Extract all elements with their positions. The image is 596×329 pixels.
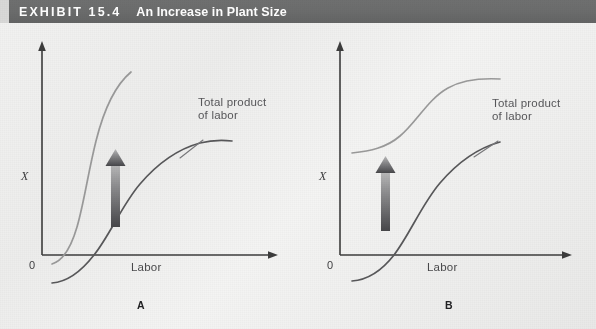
exhibit-figure: EXHIBIT 15.4 An Increase in Plant Size (0, 0, 596, 329)
shifted-total-product-curve (352, 79, 500, 153)
origin-label: 0 (29, 259, 35, 271)
y-axis-arrowhead (336, 41, 344, 51)
y-axis-label: X (319, 169, 327, 184)
annotation-line-2: of labor (198, 109, 238, 122)
exhibit-caption: An Increase in Plant Size (136, 5, 286, 19)
x-axis-arrowhead (268, 251, 278, 259)
panel-letter-a: A (137, 299, 145, 311)
exhibit-title-bar: EXHIBIT 15.4 An Increase in Plant Size (0, 0, 596, 23)
x-axis-label: Labor (131, 261, 161, 273)
chart-b-graphic (300, 23, 596, 329)
up-arrow (376, 156, 396, 231)
chart-panel-a: X 0 Labor Total product of labor A (0, 23, 300, 329)
origin-label: 0 (327, 259, 333, 271)
panel-letter-b: B (445, 299, 453, 311)
up-arrow (106, 149, 126, 227)
y-axis-arrowhead (38, 41, 46, 51)
chart-a-graphic (0, 23, 300, 329)
annotation-line-2: of labor (492, 110, 532, 123)
exhibit-number: EXHIBIT 15.4 (19, 5, 121, 19)
annotation-line-1: Total product (198, 96, 266, 109)
x-axis-label: Labor (427, 261, 457, 273)
chart-panel-b: X 0 Labor Total product of labor B (300, 23, 596, 329)
annotation-line-1: Total product (492, 97, 560, 110)
total-product-curve (352, 142, 500, 281)
x-axis-arrowhead (562, 251, 572, 259)
y-axis-label: X (21, 169, 29, 184)
annotation-leader-line (474, 141, 498, 157)
